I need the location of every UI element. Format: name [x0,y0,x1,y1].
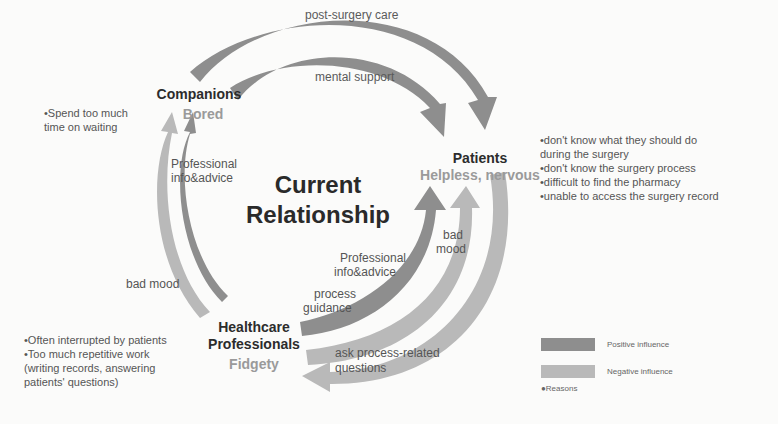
patients-name: Patients [420,150,540,167]
label-bad-mood-patients-2: mood [436,242,466,256]
label-process-guidance-2: guidance [303,301,352,315]
label-ask-questions-2: questions [335,361,386,375]
patients-mood: Helpless, nervous [410,167,550,183]
label-process-guidance-1: process [314,287,356,301]
reasons-patients: •don't know what they should do during t… [540,133,719,203]
actor-patients: Patients Helpless, nervous [420,150,540,183]
legend-positive: Positive influence [541,338,673,351]
healthcare-name-line-1: Healthcare [200,319,308,336]
reasons-companions: •Spend too much time on waiting [44,106,128,134]
title-line-2: Relationship [228,200,408,230]
reason-line: •don't know the surgery process [540,161,719,175]
legend-reasons: ●Reasons [541,384,673,393]
legend-negative: Negative influence [541,365,673,378]
arrow-prof-info-companions [180,112,228,302]
label-prof-info-companions-2: info&advice [171,171,233,185]
diagram-title: Current Relationship [228,170,408,230]
actor-companions: Companions Bored [144,86,254,122]
legend-positive-swatch [541,338,595,351]
reason-line: •difficult to find the pharmacy [540,175,719,189]
title-line-1: Current [228,170,408,200]
reason-line: during the surgery [540,147,719,161]
reason-line: •unable to access the surgery record [540,189,719,203]
legend-negative-label: Negative influence [607,367,673,376]
legend-negative-swatch [541,365,595,378]
legend: Positive influence Negative influence ●R… [541,338,673,393]
label-prof-info-patients-2: info&advice [334,265,396,279]
reason-line: •don't know what they should do [540,133,719,147]
label-prof-info-patients-1: Professional [340,251,406,265]
healthcare-name-line-2: Professionals [200,336,308,353]
label-mental-support: mental support [315,70,394,84]
legend-positive-label: Positive influence [607,340,669,349]
reason-line: •Often interrupted by patients [24,333,167,347]
reason-line: •Too much repetitive work [24,347,167,361]
reasons-healthcare: •Often interrupted by patients •Too much… [24,333,167,389]
reason-line: (writing records, answering [24,361,167,375]
label-bad-mood-companions: bad mood [126,277,179,291]
healthcare-mood: Fidgety [200,356,308,372]
reason-line: •Spend too much [44,106,128,120]
companions-name: Companions [144,86,254,103]
label-bad-mood-patients-1: bad [443,228,463,242]
label-prof-info-companions-1: Professional [171,157,237,171]
label-post-surgery-care: post-surgery care [305,8,398,22]
label-ask-questions-1: ask process-related [335,346,440,360]
companions-mood: Bored [152,106,254,122]
actor-healthcare-professionals: Healthcare Professionals Fidgety [200,319,308,372]
reason-line: time on waiting [44,120,128,134]
reason-line: patients' questions) [24,375,167,389]
